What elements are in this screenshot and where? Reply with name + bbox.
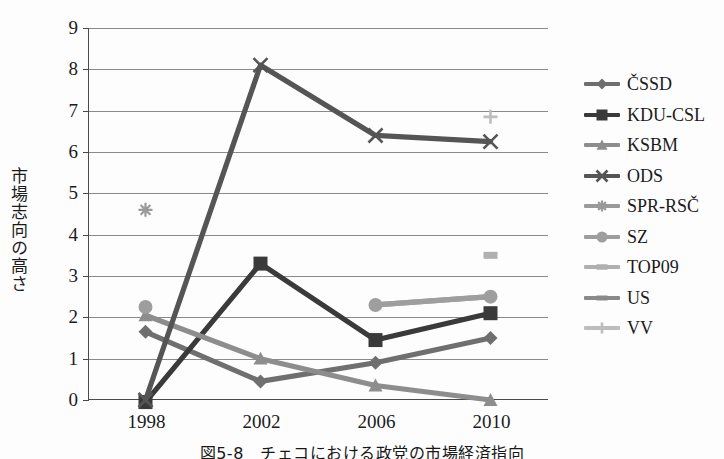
- data-point-marker: [369, 298, 383, 312]
- y-axis-tick-label: 3: [69, 265, 79, 287]
- legend-swatch-icon: [584, 169, 620, 183]
- data-point-marker: [484, 290, 498, 304]
- legend-label: ODS: [627, 167, 663, 185]
- x-axis-tick-label: 2002: [243, 411, 281, 433]
- chart-series: [484, 110, 498, 124]
- legend-item-ksbm[interactable]: KSBM: [584, 130, 720, 161]
- y-axis-tick-label: 4: [69, 224, 79, 246]
- legend-item-sz[interactable]: SZ: [584, 222, 720, 253]
- legend-item-vv[interactable]: VV: [584, 313, 720, 344]
- data-point-marker: [484, 110, 498, 124]
- legend-label: VV: [627, 319, 653, 337]
- y-axis-tick-label: 6: [69, 141, 79, 163]
- legend-label: ČSSD: [627, 75, 672, 93]
- legend-label: KDU-CSL: [627, 106, 705, 124]
- data-point-marker: [484, 306, 498, 320]
- data-point-marker: [597, 323, 608, 334]
- legend-item-top09[interactable]: TOP09: [584, 252, 720, 283]
- data-point-marker: [597, 201, 608, 212]
- data-point-marker: [597, 265, 608, 271]
- data-point-marker: [597, 170, 608, 181]
- data-point-marker: [597, 109, 608, 120]
- legend-swatch-icon: [584, 321, 620, 335]
- data-point-marker: [254, 257, 268, 271]
- legend-swatch-icon: [584, 138, 620, 152]
- figure-caption: 図5-8 チェコにおける政党の市場経済指向: [0, 440, 724, 459]
- legend-label: SZ: [627, 228, 648, 246]
- data-point-marker: [597, 140, 608, 150]
- data-point-marker: [369, 356, 383, 370]
- x-axis-tick-label: 2006: [358, 411, 396, 433]
- data-point-marker: [139, 203, 153, 217]
- y-axis-tick: [83, 400, 89, 401]
- y-axis-tick-label: 2: [69, 306, 79, 328]
- data-point-marker: [484, 252, 498, 259]
- legend-swatch-icon: [584, 260, 620, 274]
- y-axis-tick-label: 0: [69, 389, 79, 411]
- legend-label: TOP09: [627, 258, 679, 276]
- legend-item-us[interactable]: US: [584, 283, 720, 314]
- legend-item-spr-rs-[interactable]: SPR-RSČ: [584, 191, 720, 222]
- legend-swatch-icon: [584, 199, 620, 213]
- y-axis-tick-label: 1: [69, 348, 79, 370]
- y-axis-tick-label: 5: [69, 182, 79, 204]
- legend-swatch-icon: [584, 77, 620, 91]
- legend-swatch-icon: [584, 230, 620, 244]
- x-axis-tick-label: 1998: [128, 411, 166, 433]
- data-point-marker: [597, 79, 608, 90]
- y-axis-tick-label: 8: [69, 58, 79, 80]
- y-axis-title: 市場志向の高さ: [6, 167, 31, 293]
- legend-swatch-icon: [584, 291, 620, 305]
- data-point-marker: [597, 231, 608, 242]
- data-point-marker: [484, 331, 498, 345]
- data-point-marker: [139, 300, 153, 314]
- chart-legend: ČSSDKDU-CSLKSBMODSSPR-RSČSZTOP09USVV: [584, 69, 720, 344]
- chart-series: [139, 203, 153, 217]
- legend-item-ods[interactable]: ODS: [584, 161, 720, 192]
- figure-container: 市場志向の高さ 01234567891998200220062010 ČSSDK…: [0, 0, 724, 459]
- data-point-marker: [369, 333, 383, 347]
- legend-label: KSBM: [627, 136, 678, 154]
- chart-series-layer: [88, 28, 548, 400]
- legend-swatch-icon: [584, 108, 620, 122]
- legend-label: US: [627, 289, 650, 307]
- legend-item-kdu-csl[interactable]: KDU-CSL: [584, 100, 720, 131]
- legend-item--ssd[interactable]: ČSSD: [584, 69, 720, 100]
- y-axis-tick-label: 7: [69, 100, 79, 122]
- legend-label: SPR-RSČ: [627, 197, 699, 215]
- chart-series: [484, 252, 498, 259]
- data-point-marker: [597, 295, 608, 300]
- y-axis-tick-label: 9: [69, 17, 79, 39]
- x-axis-tick-label: 2010: [473, 411, 511, 433]
